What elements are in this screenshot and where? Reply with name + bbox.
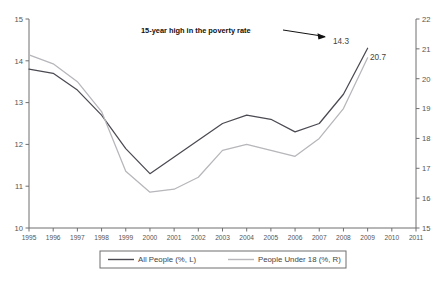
x-axis-tick-label: 1996 [46, 234, 61, 241]
chart-canvas: 1011121314151516171819202122199519961997… [0, 0, 443, 282]
right-axis-tick-label: 21 [422, 45, 430, 54]
under18-2009-label: 20.7 [370, 53, 386, 62]
x-axis-tick-label: 2008 [336, 234, 351, 241]
legend-label-0[interactable]: All People (%, L) [138, 255, 196, 264]
legend-label-1[interactable]: People Under 18 (%, R) [258, 255, 341, 264]
left-axis-tick-label: 14 [15, 57, 23, 66]
right-axis-tick-label: 17 [422, 164, 430, 173]
x-axis-tick-label: 2010 [384, 234, 399, 241]
x-axis-tick-label: 2009 [360, 234, 375, 241]
x-axis-tick-label: 2005 [264, 234, 279, 241]
x-axis-tick-label: 2002 [191, 234, 206, 241]
left-axis-tick-label: 15 [15, 15, 23, 24]
x-axis-tick-label: 2007 [312, 234, 327, 241]
x-axis-tick-label: 2004 [239, 234, 254, 241]
x-axis-tick-label: 1999 [118, 234, 133, 241]
right-axis-tick-label: 15 [422, 224, 430, 233]
all-people-2009-label: 14.3 [333, 37, 349, 46]
x-axis-tick-label: 1998 [94, 234, 109, 241]
right-axis-tick-label: 18 [422, 134, 430, 143]
left-axis-tick-label: 11 [15, 182, 23, 191]
annotation-poverty-high-note: 15-year high in the poverty rate [141, 26, 251, 35]
x-axis-tick-label: 2001 [167, 234, 182, 241]
left-axis-tick-label: 13 [15, 98, 23, 107]
right-axis-tick-label: 16 [422, 194, 430, 203]
poverty-rate-line-chart: 1011121314151516171819202122199519961997… [0, 0, 443, 282]
x-axis-tick-label: 1995 [22, 234, 37, 241]
series-line-all-people [29, 48, 368, 173]
x-axis-tick-label: 2000 [143, 234, 158, 241]
x-axis-tick-label: 2006 [288, 234, 303, 241]
series-line-under-18 [29, 55, 368, 192]
right-axis-tick-label: 19 [422, 104, 430, 113]
x-axis-tick-label: 2003 [215, 234, 230, 241]
right-axis-tick-label: 22 [422, 15, 430, 24]
left-axis-tick-label: 12 [15, 140, 23, 149]
left-axis-tick-label: 10 [15, 224, 23, 233]
x-axis-tick-label: 2011 [409, 234, 424, 241]
x-axis-tick-label: 1997 [70, 234, 85, 241]
right-axis-tick-label: 20 [422, 75, 430, 84]
